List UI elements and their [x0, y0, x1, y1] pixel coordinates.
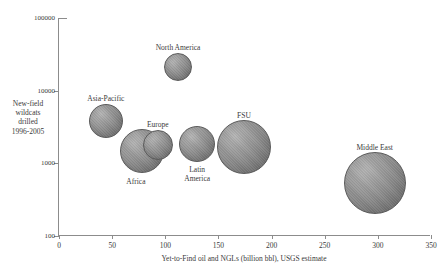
y-axis-title-line-4: 1996-2005: [2, 127, 54, 136]
bubble-label-line: Africa: [126, 177, 145, 186]
x-axis-tick-label: 300: [372, 241, 383, 250]
x-axis-tick: [218, 235, 219, 239]
x-axis-tick-label: 200: [266, 241, 277, 250]
y-axis-title-line-3: drilled: [2, 117, 54, 126]
bubble-chart: New-field wildcats drilled 1996-2005 100…: [0, 0, 445, 280]
bubble-middle-east[interactable]: [344, 152, 406, 214]
x-axis-tick-label: 250: [319, 241, 330, 250]
bubble-north-america[interactable]: [164, 53, 192, 81]
bubble-label-north-america: North America: [156, 43, 201, 52]
y-axis-title: New-field wildcats drilled 1996-2005: [2, 99, 54, 136]
y-axis-tick-label: 1000: [41, 159, 55, 167]
y-axis-tick-label: 100: [45, 232, 56, 240]
x-axis-tick: [378, 235, 379, 239]
x-axis-tick: [165, 235, 166, 239]
x-axis-tick-label: 350: [425, 241, 436, 250]
bubble-label-line: North America: [156, 43, 201, 52]
bubble-label-line: Middle East: [356, 143, 392, 152]
bubble-label-asia-pacific: Asia-Pacific: [87, 94, 124, 103]
x-axis-tick: [59, 235, 60, 239]
x-axis-tick: [112, 235, 113, 239]
x-axis-tick: [431, 235, 432, 239]
x-axis-title: Yet-to-Find oil and NGLs (billion bbl), …: [58, 254, 430, 263]
y-axis-tick-label: 10000: [38, 87, 56, 95]
y-axis-tick: [59, 18, 67, 19]
bubble-label-line: Europe: [147, 120, 169, 129]
bubble-label-line: Latin: [184, 165, 210, 174]
bubble-label-africa: Africa: [126, 177, 145, 186]
bubble-label-middle-east: Middle East: [356, 143, 392, 152]
bubble-latin-america[interactable]: [179, 126, 215, 162]
x-axis-tick-label: 0: [57, 241, 61, 250]
bubble-asia-pacific[interactable]: [89, 104, 123, 138]
x-axis-tick-label: 150: [213, 241, 224, 250]
x-axis-tick-label: 50: [108, 241, 116, 250]
y-axis-title-line-2: wildcats: [2, 108, 54, 117]
bubble-europe[interactable]: [143, 130, 173, 160]
bubble-label-latin-america: LatinAmerica: [184, 165, 210, 183]
x-axis-tick: [272, 235, 273, 239]
y-axis-title-line-1: New-field: [2, 99, 54, 108]
x-axis-tick: [325, 235, 326, 239]
x-axis-tick-label: 100: [160, 241, 171, 250]
y-axis-tick-label: 100000: [34, 14, 55, 22]
bubble-label-europe: Europe: [147, 120, 169, 129]
bubble-label-line: FSU: [237, 111, 251, 120]
bubble-label-line: America: [184, 174, 210, 183]
plot-area: 100000100001000100050100150200250300350N…: [58, 18, 430, 236]
bubble-label-line: Asia-Pacific: [87, 94, 124, 103]
bubble-label-fsu: FSU: [237, 111, 251, 120]
bubble-fsu[interactable]: [217, 120, 271, 174]
